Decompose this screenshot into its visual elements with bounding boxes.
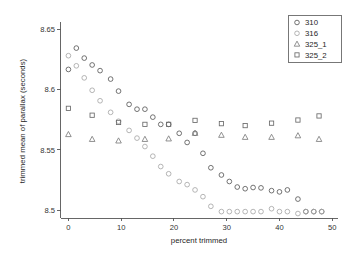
- series-325_1: [66, 130, 322, 143]
- data-point: [177, 179, 182, 184]
- data-point: [259, 209, 264, 214]
- data-point: [311, 209, 316, 214]
- data-point: [143, 107, 148, 112]
- y-tick-label: 8.55: [40, 146, 55, 155]
- data-point: [201, 194, 206, 199]
- data-point: [116, 138, 122, 143]
- parallax-trimmed-mean-scatter-chart: 8.58.558.68.6501020304050 percent trimme…: [0, 0, 353, 257]
- data-point: [269, 121, 273, 125]
- data-point: [135, 107, 140, 112]
- data-point: [303, 209, 308, 214]
- data-point: [127, 102, 132, 107]
- data-point: [108, 110, 113, 115]
- data-point: [166, 171, 171, 176]
- legend-label: 325_1: [305, 40, 327, 49]
- data-point: [259, 186, 264, 191]
- data-point: [90, 113, 94, 117]
- x-tick-label: 30: [222, 223, 230, 232]
- data-point: [98, 68, 103, 73]
- data-point: [285, 188, 290, 193]
- x-tick-label: 40: [275, 223, 283, 232]
- data-point: [116, 89, 121, 94]
- data-point: [227, 209, 232, 214]
- data-point: [316, 136, 322, 141]
- data-point: [296, 118, 300, 122]
- data-point: [143, 144, 148, 149]
- data-point: [66, 131, 72, 136]
- x-tick-label: 20: [170, 223, 178, 232]
- data-point: [219, 122, 223, 126]
- data-point: [243, 186, 248, 191]
- data-point: [277, 190, 282, 195]
- data-point: [185, 182, 190, 187]
- data-point: [158, 122, 163, 127]
- legend-label: 310: [305, 18, 319, 27]
- data-point: [177, 131, 182, 136]
- data-point: [108, 77, 113, 82]
- data-point: [219, 209, 224, 214]
- data-point: [66, 106, 70, 110]
- plot-area: 8.58.558.68.6501020304050 percent trimme…: [0, 0, 353, 257]
- data-point: [251, 185, 256, 190]
- x-tick-label: 10: [117, 223, 125, 232]
- data-point: [66, 67, 71, 72]
- data-point: [150, 115, 155, 120]
- data-point: [193, 118, 197, 122]
- x-tick-label: 0: [66, 223, 70, 232]
- data-point: [219, 173, 224, 178]
- x-axis-title: percent trimmed: [171, 236, 227, 245]
- y-tick-label: 8.5: [44, 206, 55, 215]
- data-point: [319, 209, 324, 214]
- data-point: [90, 63, 95, 68]
- data-point: [74, 46, 79, 51]
- data-point: [242, 134, 248, 139]
- data-point: [158, 164, 163, 169]
- data-point: [185, 140, 190, 145]
- y-axis-title: trimmed mean of parallax (seconds): [18, 58, 27, 183]
- data-point: [227, 179, 232, 184]
- data-point: [74, 63, 79, 68]
- data-point: [269, 206, 274, 211]
- data-point: [82, 76, 87, 81]
- data-point: [285, 209, 290, 214]
- data-point: [243, 123, 247, 127]
- x-tick-label: 50: [328, 223, 336, 232]
- data-point: [98, 98, 103, 103]
- data-point: [66, 53, 71, 58]
- data-point: [193, 188, 198, 193]
- y-tick-label: 8.65: [40, 25, 55, 34]
- y-tick-label: 8.6: [44, 85, 55, 94]
- data-point: [235, 185, 240, 190]
- data-point: [150, 154, 155, 159]
- data-points: [66, 46, 324, 216]
- data-point: [166, 122, 171, 127]
- data-point: [142, 136, 148, 141]
- data-point: [219, 132, 225, 137]
- data-point: [296, 197, 301, 202]
- legend-label: 325_2: [305, 51, 327, 60]
- legend-label: 316: [305, 29, 318, 38]
- data-point: [90, 88, 95, 93]
- data-point: [209, 204, 214, 209]
- legend[interactable]: 310316325_1325_2: [289, 15, 342, 62]
- data-point: [243, 209, 248, 214]
- data-point: [209, 165, 214, 170]
- data-point: [235, 209, 240, 214]
- data-point: [82, 56, 87, 61]
- data-point: [269, 188, 274, 193]
- data-point: [317, 114, 321, 118]
- data-point: [201, 151, 206, 156]
- data-point: [116, 119, 121, 124]
- data-point: [143, 122, 147, 126]
- series-325_2: [66, 106, 321, 128]
- data-point: [296, 211, 301, 216]
- data-point: [269, 134, 275, 139]
- data-point: [135, 136, 140, 141]
- data-point: [89, 136, 95, 141]
- data-point: [127, 128, 132, 133]
- data-point: [277, 209, 282, 214]
- data-point: [251, 209, 256, 214]
- data-point: [295, 133, 301, 138]
- data-point: [166, 136, 172, 141]
